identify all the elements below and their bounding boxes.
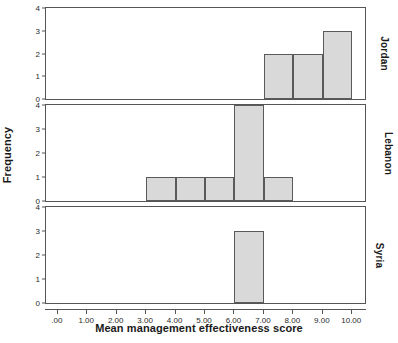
bar (323, 31, 352, 99)
y-tick-label: 4 (36, 203, 40, 212)
y-tick (42, 99, 46, 100)
y-tick-label: 1 (36, 275, 40, 284)
bar (205, 177, 234, 201)
y-tick-label: 2 (36, 149, 40, 158)
y-tick (42, 303, 46, 304)
x-tick (57, 309, 58, 314)
panel-jordan: 01234 (45, 7, 366, 100)
x-tick (116, 309, 117, 314)
panel-label-jordan: Jordan (367, 7, 398, 100)
plot-area-syria (46, 207, 365, 303)
panel-label-text: Jordan (379, 36, 390, 71)
x-tick (351, 309, 352, 314)
y-tick (42, 129, 46, 130)
x-tick (204, 309, 205, 314)
x-tick (322, 309, 323, 314)
x-tick (263, 309, 264, 314)
y-tick-label: 2 (36, 49, 40, 58)
bar (176, 177, 205, 201)
panel-label-lebanon: Lebanon (367, 104, 398, 202)
y-tick (42, 201, 46, 202)
bar (293, 54, 322, 100)
x-tick (145, 309, 146, 314)
y-tick-label: 1 (36, 173, 40, 182)
panel-label-text: Lebanon (383, 131, 394, 174)
y-tick (42, 279, 46, 280)
x-axis (45, 309, 366, 310)
y-tick (42, 30, 46, 31)
y-tick (42, 255, 46, 256)
y-tick (42, 153, 46, 154)
y-tick-label: 1 (36, 72, 40, 81)
x-tick (86, 309, 87, 314)
y-tick (42, 105, 46, 106)
bar (264, 177, 293, 201)
y-tick-label: 4 (36, 101, 40, 110)
bar (234, 105, 263, 201)
x-axis-title: Mean management effectiveness score (0, 322, 398, 334)
y-tick (42, 76, 46, 77)
y-tick (42, 207, 46, 208)
x-tick (233, 309, 234, 314)
y-tick-label: 4 (36, 4, 40, 13)
x-tick (292, 309, 293, 314)
panel-lebanon: 01234 (45, 104, 366, 202)
bar (234, 231, 263, 303)
y-tick-label: 3 (36, 26, 40, 35)
y-tick (42, 177, 46, 178)
bar (146, 177, 175, 201)
x-tick (175, 309, 176, 314)
y-tick-label: 3 (36, 125, 40, 134)
panel-syria: 01234 (45, 206, 366, 304)
bar (264, 54, 293, 100)
y-axis-title-label: Frequency (1, 127, 13, 184)
plot-area-jordan (46, 8, 365, 99)
y-tick (42, 231, 46, 232)
plot-area-lebanon (46, 105, 365, 201)
y-tick (42, 8, 46, 9)
y-tick-label: 2 (36, 251, 40, 260)
panel-label-syria: Syria (367, 206, 398, 304)
y-tick (42, 53, 46, 54)
y-tick-label: 3 (36, 227, 40, 236)
y-tick-label: 0 (36, 299, 40, 308)
panel-label-text: Syria (374, 242, 385, 267)
histogram-panel-chart: Frequency 01234Jordan01234Lebanon01234Sy… (0, 0, 398, 343)
y-axis-title: Frequency (0, 0, 14, 310)
